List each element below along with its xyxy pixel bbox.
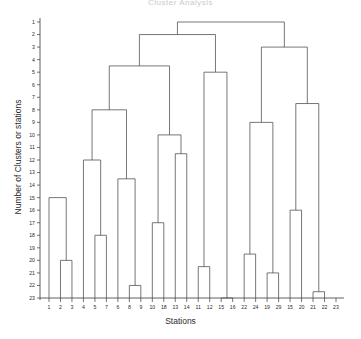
y-tick-label: 17: [29, 220, 35, 226]
y-tick-label: 23: [29, 295, 35, 301]
x-tick-label: 4: [82, 304, 85, 310]
x-tick-label: 21: [310, 304, 316, 310]
dendrogram-link: [290, 210, 301, 298]
y-tick-label: 18: [29, 232, 35, 238]
dendrogram-link: [49, 198, 66, 298]
x-tick-label: 1: [48, 304, 51, 310]
x-tick-label: 15: [218, 304, 224, 310]
x-tick-label: 9: [139, 304, 142, 310]
x-tick-label: 8: [128, 304, 131, 310]
x-tick-label: 12: [207, 304, 213, 310]
x-tick-label: 7: [105, 304, 108, 310]
y-tick-label: 19: [29, 245, 35, 251]
y-tick-label: 9: [32, 119, 35, 125]
x-tick-label: 22: [241, 304, 247, 310]
x-tick-label: 15: [287, 304, 293, 310]
y-tick-label: 6: [32, 82, 35, 88]
y-tick-label: 21: [29, 270, 35, 276]
dendrogram-plot-area: 1234567891011121314151617181920212223123…: [0, 0, 361, 339]
dendrogram-link: [175, 154, 186, 298]
x-tick-label: 14: [184, 304, 190, 310]
y-tick-label: 12: [29, 157, 35, 163]
dendrogram-figure: Cluster Analysis Number of Clusters or s…: [0, 0, 361, 339]
dendrogram-link: [139, 35, 215, 73]
dendrogram-link: [250, 122, 273, 273]
x-tick-label: 20: [299, 304, 305, 310]
dendrogram-link: [152, 223, 163, 298]
x-tick-label: 24: [253, 304, 259, 310]
y-tick-label: 20: [29, 257, 35, 263]
y-tick-label: 5: [32, 69, 35, 75]
dendrogram-svg: 1234567891011121314151617181920212223123…: [0, 0, 361, 339]
x-tick-label: 23: [333, 304, 339, 310]
y-tick-label: 15: [29, 195, 35, 201]
y-tick-label: 8: [32, 107, 35, 113]
dendrogram-link: [95, 235, 106, 298]
dendrogram-link: [158, 135, 181, 223]
x-tick-label: 11: [196, 304, 201, 310]
dendrogram-link: [204, 72, 227, 298]
dendrogram-link: [60, 260, 71, 298]
y-tick-label: 14: [29, 182, 35, 188]
y-tick-label: 4: [32, 57, 35, 63]
dendrogram-link: [83, 160, 100, 298]
dendrogram-link: [109, 66, 169, 135]
x-tick-label: 19: [264, 304, 270, 310]
x-tick-label: 2: [59, 304, 62, 310]
dendrogram-link: [198, 267, 209, 298]
y-tick-label: 3: [32, 44, 35, 50]
dendrogram-link: [261, 47, 307, 122]
x-tick-label: 5: [93, 304, 96, 310]
y-tick-label: 7: [32, 94, 35, 100]
x-tick-label: 16: [230, 304, 236, 310]
dendrogram-link: [129, 285, 140, 298]
dendrogram-link: [244, 254, 255, 298]
y-tick-label: 2: [32, 31, 35, 37]
dendrogram-link: [296, 104, 319, 292]
y-tick-label: 22: [29, 282, 35, 288]
y-tick-label: 13: [29, 169, 35, 175]
dendrogram-link: [313, 292, 324, 298]
x-tick-label: 10: [149, 304, 155, 310]
x-tick-label: 3: [71, 304, 74, 310]
x-tick-label: 22: [322, 304, 328, 310]
x-tick-label: 29: [276, 304, 282, 310]
dendrogram-link: [118, 179, 135, 298]
x-tick-label: 6: [116, 304, 119, 310]
dendrogram-link: [267, 273, 278, 298]
x-tick-label: 13: [172, 304, 178, 310]
x-tick-label: 18: [161, 304, 167, 310]
y-tick-label: 11: [30, 144, 35, 150]
y-tick-label: 10: [29, 132, 35, 138]
y-tick-label: 16: [29, 207, 35, 213]
dendrogram-link: [92, 110, 126, 179]
y-tick-label: 1: [32, 19, 35, 25]
